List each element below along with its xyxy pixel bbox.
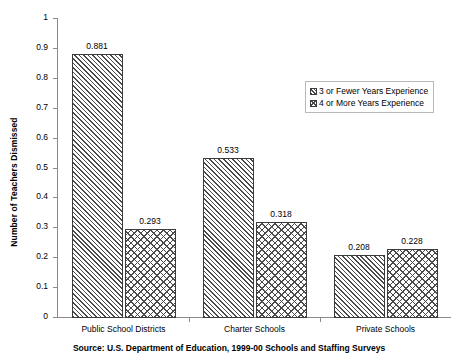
y-tick-label: 0.1 bbox=[22, 282, 48, 291]
y-tick-label: 0.9 bbox=[22, 43, 48, 52]
x-category-label: Charter Schools bbox=[185, 324, 325, 334]
y-tick-mark bbox=[53, 48, 57, 49]
bar-value-label: 0.228 bbox=[381, 236, 444, 246]
y-tick-label: 0.2 bbox=[22, 252, 48, 261]
y-tick-mark bbox=[53, 138, 57, 139]
x-axis-separator-mark bbox=[189, 318, 190, 322]
bar-value-label: 0.318 bbox=[250, 209, 313, 219]
bar bbox=[203, 158, 254, 318]
y-tick-label: 1 bbox=[22, 13, 48, 22]
source-note: Source: U.S. Department of Education, 19… bbox=[0, 343, 458, 354]
y-tick-label: 0.7 bbox=[22, 103, 48, 112]
y-tick-mark bbox=[53, 257, 57, 258]
bar-value-label: 0.881 bbox=[66, 41, 129, 51]
legend-label-series-1: 3 or Fewer Years Experience bbox=[319, 86, 428, 96]
y-tick-mark bbox=[53, 197, 57, 198]
bar bbox=[125, 229, 176, 318]
bar bbox=[334, 255, 385, 318]
legend-label-series-2: 4 or More Years Experience bbox=[319, 98, 424, 108]
y-tick-mark bbox=[53, 168, 57, 169]
y-tick-label: 0 bbox=[22, 312, 48, 321]
bar bbox=[256, 222, 307, 318]
y-tick-label: 0.4 bbox=[22, 192, 48, 201]
legend-item-series-1[interactable]: 3 or Fewer Years Experience bbox=[310, 85, 428, 97]
x-axis-separator-mark bbox=[320, 318, 321, 322]
y-tick-label: 0.3 bbox=[22, 222, 48, 231]
y-axis-line bbox=[57, 18, 58, 318]
bar-value-label: 0.533 bbox=[197, 145, 260, 155]
y-tick-mark bbox=[53, 108, 57, 109]
y-tick-mark bbox=[53, 18, 57, 19]
y-tick-mark bbox=[53, 317, 57, 318]
y-tick-mark bbox=[53, 78, 57, 79]
x-category-label: Private Schools bbox=[316, 324, 456, 334]
y-tick-label: 0.5 bbox=[22, 163, 48, 172]
legend[interactable]: 3 or Fewer Years Experience 4 or More Ye… bbox=[305, 81, 434, 113]
bar bbox=[72, 54, 123, 318]
y-tick-label: 0.8 bbox=[22, 73, 48, 82]
legend-swatch-cross-hatch-icon bbox=[310, 100, 317, 107]
legend-item-series-2[interactable]: 4 or More Years Experience bbox=[310, 97, 428, 109]
bar bbox=[387, 249, 438, 318]
y-tick-mark bbox=[53, 287, 57, 288]
y-tick-mark bbox=[53, 227, 57, 228]
x-category-label: Public School Districts bbox=[54, 324, 194, 334]
y-axis-title: Number of Teachers Dismissed bbox=[7, 62, 21, 302]
y-tick-label: 0.6 bbox=[22, 133, 48, 142]
bar-value-label: 0.293 bbox=[119, 216, 182, 226]
legend-swatch-diagonal-hatch-icon bbox=[310, 88, 317, 95]
bar-chart: Number of Teachers Dismissed 10.90.80.70… bbox=[0, 0, 458, 360]
